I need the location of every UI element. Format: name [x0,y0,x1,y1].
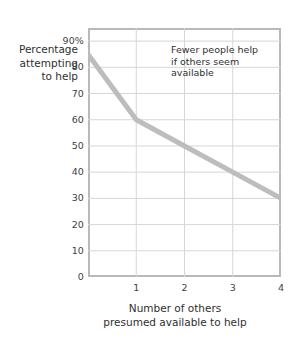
annotation-line-1: Fewer people help [171,44,281,56]
y-tick-label: 60 [48,115,84,125]
y-tick-label: 10 [48,246,84,256]
chart-figure: Percentage attempting to help 0102030405… [0,0,293,339]
annotation-line-2: if others seem [171,56,281,68]
y-tick-label: 20 [48,220,84,230]
y-tick-label: 30 [48,193,84,203]
y-tick-label: 50 [48,141,84,151]
y-axis-ticks: 0102030405060708090% [46,0,84,339]
y-tick-label: 0 [48,272,84,282]
y-tick-label: 70 [48,89,84,99]
y-tick-label: 80 [48,62,84,72]
y-tick-label: 40 [48,167,84,177]
x-tick-label: 3 [221,283,245,293]
x-axis-title-line-1: Number of others [60,302,290,316]
x-tick-label: 2 [173,283,197,293]
y-tick-label: 90% [48,36,84,46]
x-axis-title: Number of others presumed available to h… [60,302,290,329]
x-axis-title-line-2: presumed available to help [60,316,290,330]
x-tick-label: 1 [124,283,148,293]
x-tick-label: 4 [269,283,293,293]
annotation-line-3: available [171,67,281,79]
chart-annotation: Fewer people help if others seem availab… [171,44,281,79]
